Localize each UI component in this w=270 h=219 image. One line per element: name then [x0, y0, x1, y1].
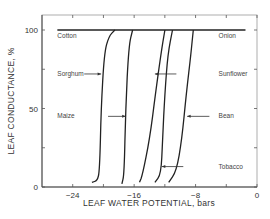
- arrowhead-bean: [187, 115, 191, 118]
- x-tick-label: 0: [255, 191, 260, 200]
- x-axis-title: LEAF WATER POTENTIAL, bars: [83, 198, 215, 208]
- label-bean: Bean: [219, 112, 235, 119]
- arrowhead-sunflower: [155, 72, 159, 75]
- annotations: CottonOnionSorghumSunflowerMaizeBeanToba…: [57, 32, 248, 169]
- y-tick-label: 100: [25, 26, 39, 35]
- ticks: [42, 15, 257, 187]
- curve-bean: [155, 30, 173, 182]
- label-maize: Maize: [57, 112, 75, 119]
- curve-tobacco: [169, 30, 194, 182]
- curves: [92, 30, 193, 184]
- label-sunflower: Sunflower: [219, 70, 249, 77]
- y-tick-label: 50: [29, 105, 38, 114]
- arrowhead-sorghum: [98, 72, 102, 75]
- chart: −24−16−80050100 CottonOnionSorghumSunflo…: [0, 0, 270, 219]
- label-cotton: Cotton: [57, 32, 77, 39]
- x-tick-label: −24: [66, 191, 80, 200]
- label-tobacco: Tobacco: [219, 163, 244, 170]
- plot-frame: [42, 15, 257, 187]
- curve-sorghum: [92, 30, 115, 182]
- arrowhead-tobacco: [162, 165, 166, 168]
- label-onion: Onion: [219, 32, 237, 39]
- label-sorghum: Sorghum: [57, 70, 83, 78]
- curve-maize: [122, 30, 133, 184]
- y-tick-label: 0: [34, 183, 39, 192]
- y-axis-title: LEAF CONDUCTANCE, %: [6, 47, 16, 154]
